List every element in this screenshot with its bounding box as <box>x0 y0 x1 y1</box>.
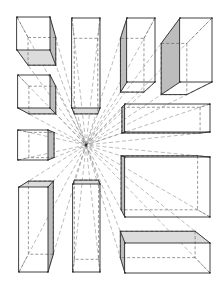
front-face <box>125 157 210 217</box>
corner-mark <box>124 216 126 218</box>
convergence-ray <box>86 132 210 145</box>
box-bottom-left-tall <box>18 181 53 273</box>
corner-mark <box>49 107 51 109</box>
front-face <box>125 243 210 273</box>
corner-mark <box>72 183 74 185</box>
convergence-ray <box>73 145 86 184</box>
box-small-left-cube <box>17 129 54 161</box>
corner-mark <box>126 81 128 83</box>
depth-edge <box>187 82 212 95</box>
front-face <box>127 18 155 82</box>
corner-mark <box>124 242 126 244</box>
top-face-shade <box>73 180 100 184</box>
corner-mark <box>179 81 181 83</box>
corner-mark <box>71 107 73 109</box>
convergence-ray <box>86 145 210 243</box>
corner-mark <box>49 74 51 76</box>
front-face <box>17 17 50 50</box>
corner-mark <box>47 271 49 273</box>
corner-mark <box>49 16 51 18</box>
corner-mark <box>209 216 211 218</box>
left-face-shade <box>161 18 180 95</box>
depth-edge <box>187 18 212 43</box>
corner-mark <box>16 49 18 51</box>
right-face-shade <box>48 130 54 160</box>
corner-mark <box>99 107 101 109</box>
depth-edge <box>144 82 155 92</box>
corner-mark <box>99 183 101 185</box>
corner-mark <box>18 186 20 188</box>
corner-mark <box>154 81 156 83</box>
corner-mark <box>211 17 213 19</box>
front-face <box>73 184 100 272</box>
corner-mark <box>124 131 126 133</box>
bottom-face-shade <box>72 108 100 114</box>
corner-mark <box>209 131 211 133</box>
left-face-shade <box>122 104 125 133</box>
top-face-shade <box>120 231 210 243</box>
left-face-shade <box>121 156 125 217</box>
perspective-drawing <box>0 0 224 285</box>
corner-mark <box>47 186 49 188</box>
corner-mark <box>179 17 181 19</box>
corner-mark <box>154 17 156 19</box>
corner-mark <box>99 17 101 19</box>
box-top-left-cube <box>16 16 56 65</box>
corner-mark <box>99 271 101 273</box>
corner-mark <box>124 272 126 274</box>
corner-mark <box>17 107 19 109</box>
front-face <box>18 130 48 160</box>
corner-mark <box>124 103 126 105</box>
corner-mark <box>211 81 213 83</box>
box-bottom-center-tall <box>72 180 101 273</box>
convergence-ray <box>86 145 210 273</box>
depth-edge <box>198 210 210 217</box>
box-top-right-2 <box>161 17 213 94</box>
box-top-center-tall <box>71 17 101 114</box>
front-face <box>180 18 212 82</box>
corner-mark <box>16 16 18 18</box>
corner-mark <box>17 129 19 131</box>
convergence-ray <box>86 18 100 145</box>
corner-mark <box>126 17 128 19</box>
corner-mark <box>209 272 211 274</box>
corner-mark <box>17 159 19 161</box>
box-top-right-1 <box>120 17 155 92</box>
corner-mark <box>47 159 49 161</box>
convergence-ray <box>86 145 125 243</box>
convergence-ray <box>86 145 210 157</box>
corner-mark <box>49 49 51 51</box>
corner-mark <box>17 74 19 76</box>
corner-mark <box>71 17 73 19</box>
perspective-boxes <box>16 16 213 274</box>
corner-mark <box>124 156 126 158</box>
corner-mark <box>209 103 211 105</box>
corner-mark <box>47 129 49 131</box>
corner-mark <box>72 271 74 273</box>
box-bottom-right <box>120 231 210 274</box>
front-face <box>19 187 48 272</box>
front-face <box>72 18 100 108</box>
box-right-large <box>121 156 211 218</box>
corner-mark <box>209 242 211 244</box>
corner-mark <box>209 156 211 158</box>
vanishing-point <box>85 144 87 146</box>
corner-mark <box>18 271 20 273</box>
